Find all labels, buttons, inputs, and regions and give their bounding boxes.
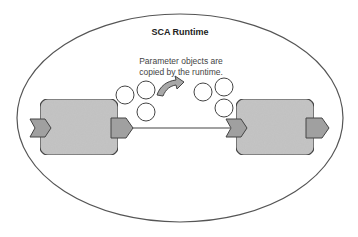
parameter-object-copy-icon [194,83,212,101]
caption-line-2: copied by the runtime. [120,67,242,78]
caption-line-1: Parameter objects are [120,56,242,67]
parameter-object-icon [137,103,155,121]
parameter-object-copy-icon [215,99,233,117]
target-component-body [236,99,314,155]
target-component [226,99,329,155]
copy-caption: Parameter objects are copied by the runt… [120,56,242,78]
parameter-object-icon [137,81,155,99]
parameter-object-copy-icon [215,78,233,96]
source-component-body [40,99,118,155]
source-component [30,99,133,155]
runtime-title: SCA Runtime [130,27,230,37]
parameter-object-icon [116,86,134,104]
